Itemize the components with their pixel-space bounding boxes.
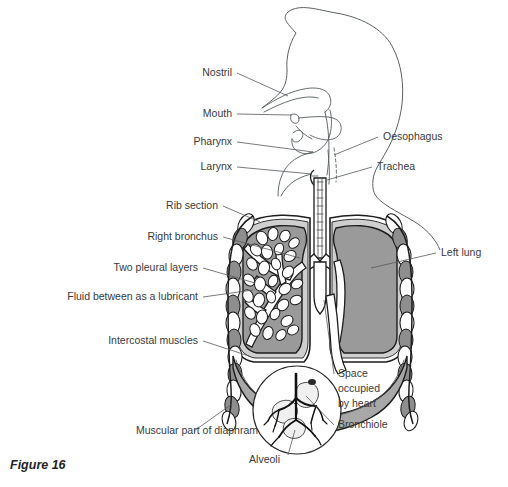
label-two-pleural: Two pleural layers — [113, 261, 198, 273]
label-mouth: Mouth — [203, 107, 232, 119]
leader-line-mouth — [237, 114, 291, 115]
figure-container: NostrilMouthPharynxLarynxRib sectionRigh… — [0, 0, 508, 487]
label-diaphram: Muscular part of diaphram — [136, 424, 258, 436]
label-alveoli: Alveoli — [249, 453, 280, 465]
leader-line-pharynx — [237, 142, 313, 152]
label-space-heart-2: occupied — [338, 382, 380, 394]
label-pharynx: Pharynx — [193, 135, 232, 147]
label-intercostal: Intercostal muscles — [108, 334, 198, 346]
label-rib-section: Rib section — [166, 199, 218, 211]
label-trachea: Trachea — [377, 160, 415, 172]
label-oesophagus: Oesophagus — [383, 130, 443, 142]
label-larynx: Larynx — [200, 160, 232, 172]
label-bronchiole: Bronchiole — [338, 418, 388, 430]
oral-cavity — [291, 110, 342, 154]
figure-caption: Figure 16 — [10, 458, 67, 472]
label-fluid-lub: Fluid between as a lubricant — [67, 290, 198, 302]
leader-line-trachea — [327, 167, 372, 180]
label-space-heart-1: Space — [338, 367, 368, 379]
head-outline — [262, 8, 440, 250]
label-space-heart-3: by heart — [338, 397, 376, 409]
label-nostril: Nostril — [202, 66, 232, 78]
label-right-bronchus: Right bronchus — [147, 230, 218, 242]
label-left-lung: Left lung — [441, 246, 481, 258]
leader-line-larynx — [237, 167, 312, 174]
trachea — [314, 178, 326, 258]
respiratory-system-diagram: NostrilMouthPharynxLarynxRib sectionRigh… — [0, 0, 508, 487]
alveoli-inset — [253, 366, 341, 454]
labels-bottom: Alveoli — [249, 453, 280, 465]
